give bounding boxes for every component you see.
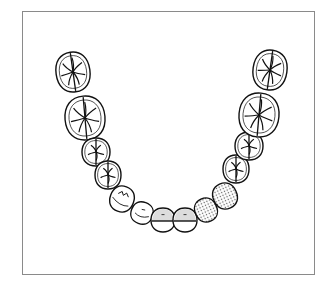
tooth-l-m2 xyxy=(63,94,107,141)
tooth-r-m2 xyxy=(237,91,281,138)
tooth-l-i1 xyxy=(151,208,175,232)
tooth-l-m1 xyxy=(53,50,92,94)
tooth-l-pm2 xyxy=(95,161,121,189)
tooth-r-m1 xyxy=(250,48,289,92)
dental-arch xyxy=(0,0,334,289)
tooth-r-i1 xyxy=(173,208,197,232)
